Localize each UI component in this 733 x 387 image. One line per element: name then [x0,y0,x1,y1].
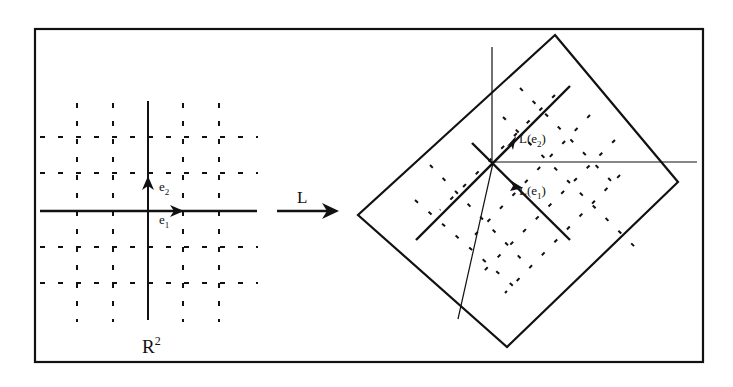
L-e1-label: L(e1) [519,183,546,201]
map-label: L [297,188,307,207]
e2-label: e2 [159,179,169,197]
linear-map-diagram: e2 e1 R2 L L(e2) L(e1) [0,0,733,387]
e1-label: e1 [159,212,169,230]
transformed-square [358,35,678,347]
r2-label: R2 [142,334,161,357]
L-e2-label: L(e2) [519,131,546,149]
figure-frame [35,29,703,362]
